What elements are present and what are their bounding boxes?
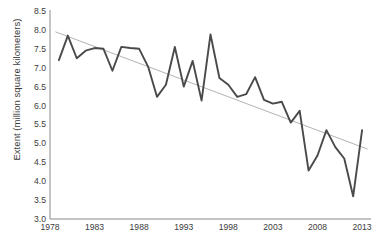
plot-area (0, 0, 374, 235)
data-line (59, 34, 362, 196)
sea-ice-extent-chart: Extent (million square kilometers) 3.03.… (0, 0, 374, 235)
